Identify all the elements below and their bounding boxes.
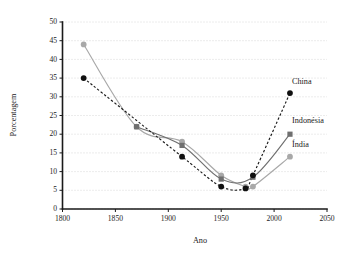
- data-point-china-1980: [250, 172, 256, 178]
- y-tick-label: 30: [49, 92, 57, 101]
- x-tick-label: 1900: [161, 214, 176, 223]
- data-point-china-1820: [81, 75, 87, 81]
- x-tick-label: 1950: [214, 214, 229, 223]
- series-label-india: Índia: [292, 139, 309, 149]
- series-line-china: [84, 78, 290, 190]
- data-point-indonesia-1870: [134, 124, 139, 129]
- data-point-indonesia-1913: [179, 143, 184, 148]
- series-group: [84, 44, 290, 190]
- chart-figure: 05101520253035404550 1800185019001950200…: [0, 0, 361, 257]
- y-tick-labels: 05101520253035404550: [49, 17, 57, 213]
- y-tick-label: 5: [53, 185, 57, 194]
- y-tick-label: 45: [49, 36, 57, 45]
- series-line-india: [84, 44, 290, 189]
- gridlines-group: [63, 22, 328, 209]
- x-tick-label: 2050: [319, 214, 334, 223]
- chart-canvas: 05101520253035404550 1800185019001950200…: [0, 0, 361, 257]
- y-axis: 05101520253035404550: [49, 17, 62, 213]
- data-point-india-2015: [287, 154, 293, 160]
- data-point-china-2015: [287, 90, 293, 96]
- x-tick-label: 2000: [267, 214, 282, 223]
- series-label-china: China: [292, 77, 312, 86]
- y-tick-label: 15: [49, 148, 57, 157]
- markers-group: [81, 42, 293, 192]
- y-tick-label: 10: [49, 167, 57, 176]
- x-tick-labels: 180018501900195020002050: [55, 214, 335, 223]
- y-tick-label: 25: [49, 111, 57, 120]
- data-point-india-1820: [81, 42, 87, 48]
- x-tick-label: 1800: [55, 214, 70, 223]
- data-point-china-1973: [243, 186, 249, 192]
- series-end-labels: ChinaIndonésiaÍndia: [292, 77, 324, 150]
- x-tick-label: 1850: [108, 214, 123, 223]
- y-tick-label: 50: [49, 17, 57, 26]
- series-label-indonesia: Indonésia: [292, 116, 324, 125]
- data-point-india-1980: [250, 184, 256, 190]
- data-point-china-1950: [218, 184, 224, 190]
- series-line-indonesia: [137, 127, 290, 183]
- data-point-indonesia-2015: [287, 132, 292, 137]
- y-axis-title: Porcentagem: [9, 93, 18, 136]
- y-tick-label: 0: [53, 204, 57, 213]
- y-tick-label: 35: [49, 73, 57, 82]
- y-tick-label: 40: [49, 55, 57, 64]
- data-point-indonesia-1950: [219, 176, 224, 181]
- data-point-china-1913: [179, 154, 185, 160]
- y-tick-label: 20: [49, 129, 57, 138]
- x-axis-title: Ano: [193, 236, 207, 245]
- x-axis: 180018501900195020002050: [55, 209, 335, 223]
